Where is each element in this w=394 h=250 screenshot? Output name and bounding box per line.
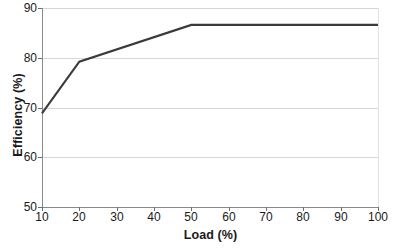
- x-tick-label-90: 90: [321, 211, 361, 223]
- plot-area: [42, 8, 379, 208]
- x-tick-label-60: 60: [209, 211, 249, 223]
- x-tick-label-20: 20: [59, 211, 99, 223]
- y-tick-label-60: 60: [7, 151, 37, 163]
- y-tick-label-90: 90: [7, 2, 37, 14]
- x-tick-label-80: 80: [283, 211, 323, 223]
- y-tick-label-80: 80: [7, 52, 37, 64]
- efficiency-series-line: [42, 8, 379, 208]
- x-tick-label-100: 100: [358, 211, 394, 223]
- x-tick-label-70: 70: [246, 211, 286, 223]
- x-tick-label-50: 50: [171, 211, 211, 223]
- x-tick-label-30: 30: [97, 211, 137, 223]
- efficiency-vs-load-line-chart: Efficiency (%) 5060708090 10203040506070…: [0, 0, 394, 250]
- y-axis-tick-labels: 5060708090: [4, 8, 37, 208]
- x-tick-label-40: 40: [134, 211, 174, 223]
- x-axis-title: Load (%): [42, 228, 379, 242]
- y-tick-label-70: 70: [7, 102, 37, 114]
- x-tick-label-10: 10: [22, 211, 62, 223]
- x-axis-tick-labels: 102030405060708090100: [42, 211, 379, 227]
